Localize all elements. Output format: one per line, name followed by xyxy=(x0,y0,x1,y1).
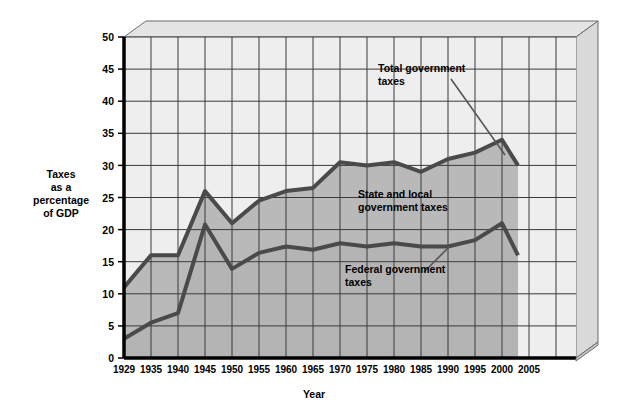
x-tick-label-2005: 2005 xyxy=(509,364,549,375)
y-tick-label-45: 45 xyxy=(88,63,114,75)
y-tick-label-20: 20 xyxy=(88,224,114,236)
federal-government-taxes-label: Federal government taxes xyxy=(345,263,445,289)
y-tick-label-30: 30 xyxy=(88,160,114,172)
y-tick-label-15: 15 xyxy=(88,256,114,268)
y-tick-label-0: 0 xyxy=(88,352,114,364)
tax-gdp-area-chart: Taxes as a percentage of GDP Year 0 5 10… xyxy=(0,0,628,417)
x-axis-title: Year xyxy=(0,388,628,400)
y-tick-label-50: 50 xyxy=(88,31,114,43)
y-tick-label-40: 40 xyxy=(88,95,114,107)
y-tick-label-25: 25 xyxy=(88,192,114,204)
total-government-taxes-label: Total government taxes xyxy=(378,62,465,88)
plot-top-panel-3d xyxy=(124,21,598,37)
plot-right-panel-3d xyxy=(576,21,598,358)
y-tick-label-35: 35 xyxy=(88,127,114,139)
y-axis-title-line-4: of GDP xyxy=(14,207,108,220)
state-and-local-government-taxes-label: State and local government taxes xyxy=(358,188,448,214)
y-tick-label-5: 5 xyxy=(88,320,114,332)
y-tick-label-10: 10 xyxy=(88,288,114,300)
